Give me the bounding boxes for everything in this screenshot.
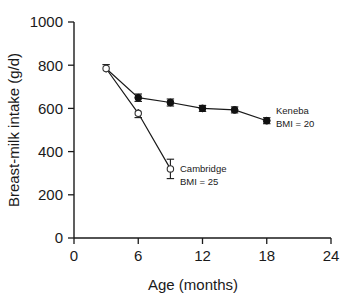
y-tick-label-400: 400 [38,143,63,160]
x-tick-label-18: 18 [258,247,275,264]
x-tick-label-24: 24 [323,247,340,264]
y-tick-label-0: 0 [55,229,63,246]
data-point-marker [263,117,270,124]
y-tick-label-1000: 1000 [30,13,63,30]
y-axis-title: Breast-milk intake (g/d) [5,53,22,207]
data-point-marker [135,94,142,101]
x-tick-label-6: 6 [134,247,142,264]
x-axis-title: Age (months) [148,276,238,293]
data-point-marker [167,99,174,106]
figure-container: 1000 800 600 400 200 0 0 6 12 18 24 Age … [0,0,341,301]
data-point-marker [231,107,238,114]
x-tick-label-0: 0 [70,247,78,264]
keneba-markers [135,94,270,124]
data-point-marker [199,105,206,112]
x-axis-ticks [74,238,331,244]
data-point-marker [135,110,141,116]
data-point-marker [167,166,173,172]
cambridge-label-line2: BMI = 25 [180,176,218,187]
cambridge-line [106,69,170,169]
keneba-label-line2: BMI = 20 [276,118,314,129]
y-tick-label-800: 800 [38,57,63,74]
series-cambridge [102,65,174,179]
data-point-marker [103,65,109,71]
cambridge-error-bars [102,65,174,179]
y-axis-ticks [68,22,74,238]
keneba-label-line1: Keneba [276,105,309,116]
keneba-line [106,69,267,121]
x-tick-label-12: 12 [194,247,211,264]
series-keneba [106,69,270,125]
y-tick-label-600: 600 [38,100,63,117]
y-tick-label-200: 200 [38,186,63,203]
cambridge-label-line1: Cambridge [180,163,226,174]
breast-milk-intake-line-chart: 1000 800 600 400 200 0 0 6 12 18 24 Age … [0,0,341,301]
